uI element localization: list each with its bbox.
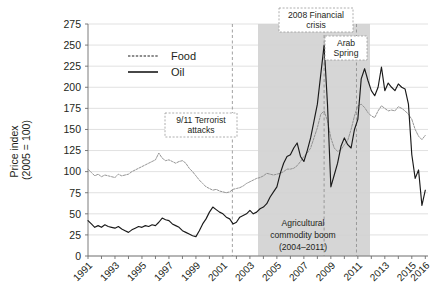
- y-tick-label-0: 0: [75, 250, 81, 262]
- y-tick-label-50: 50: [69, 208, 81, 220]
- series-line-oil: [88, 45, 425, 237]
- x-tick-label-2005: 2005: [260, 259, 284, 283]
- y-tick-label-125: 125: [63, 144, 81, 156]
- axes: [85, 24, 428, 259]
- annotation-2008-financial-crisis: 2008 Financial crisis: [279, 8, 353, 32]
- chart-legend: Food Oil: [128, 50, 196, 78]
- annotation-arab-line2: Spring: [334, 48, 359, 58]
- annotation-boom-line3: (2004–2011): [279, 242, 327, 252]
- annotation-9-11-line1: 9/11 Terrorist: [176, 115, 226, 125]
- y-tick-labels: 0255075100125150175200225250275: [63, 18, 81, 262]
- x-tick-label-2003: 2003: [233, 259, 257, 283]
- legend-label-oil: Oil: [171, 66, 184, 78]
- annotation-boom-line2: commodity boom: [270, 230, 335, 240]
- annotation-crisis-line1: 2008 Financial: [288, 10, 344, 20]
- annotation-9-11-terrorist-attacks: 9/11 Terrorist attacks: [165, 113, 237, 137]
- annotation-crisis-line2: crisis: [306, 20, 326, 30]
- x-tick-labels: 1991199319951997199920012003200520072009…: [71, 259, 432, 283]
- price-index-chart: 0255075100125150175200225250275 19911993…: [0, 0, 436, 305]
- y-tick-label-150: 150: [63, 123, 81, 135]
- x-tick-label-2009: 2009: [314, 259, 338, 283]
- y-tick-label-100: 100: [63, 165, 81, 177]
- x-tick-label-2013: 2013: [368, 259, 392, 283]
- x-tick-label-1997: 1997: [152, 259, 176, 283]
- x-tick-label-1995: 1995: [125, 259, 149, 283]
- x-tick-label-1991: 1991: [71, 259, 95, 283]
- annotation-boom-line1: Agricultural: [282, 218, 325, 228]
- x-tick-label-2011: 2011: [341, 259, 364, 282]
- y-tick-label-250: 250: [63, 39, 81, 51]
- y-tick-label-200: 200: [63, 81, 81, 93]
- y-tick-label-75: 75: [69, 187, 81, 199]
- x-tick-label-1999: 1999: [179, 259, 203, 283]
- legend-label-food: Food: [171, 50, 196, 62]
- annotation-arab-spring: Arab Spring: [325, 36, 367, 60]
- y-tick-label-175: 175: [63, 102, 81, 114]
- y-tick-label-25: 25: [69, 229, 81, 241]
- series-line-food: [88, 104, 425, 193]
- y-tick-label-225: 225: [63, 60, 81, 72]
- data-series-layer: [88, 45, 425, 237]
- y-axis-title: Price index (2005 = 100): [8, 120, 32, 180]
- x-tick-label-2007: 2007: [287, 259, 311, 283]
- annotation-arab-line1: Arab: [337, 38, 355, 48]
- chart-canvas: 0255075100125150175200225250275 19911993…: [0, 0, 436, 305]
- annotation-9-11-line2: attacks: [187, 125, 214, 135]
- y-axis-title-line1: Price index: [8, 125, 20, 178]
- y-tick-label-275: 275: [63, 18, 81, 30]
- y-axis-title-line2: (2005 = 100): [20, 120, 32, 180]
- svg-text:Price index (2005 = 10: Price index (2005 = 100): [8, 120, 32, 180]
- x-tick-label-1993: 1993: [98, 259, 122, 283]
- x-tick-label-2001: 2001: [206, 259, 230, 283]
